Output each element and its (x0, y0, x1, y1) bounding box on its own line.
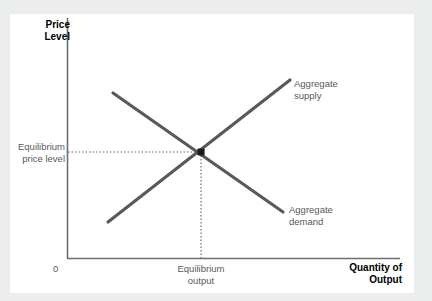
aggregate-supply-label-line-1: Aggregate (294, 78, 338, 90)
aggregate-demand-label-line-1: Aggregate (289, 204, 333, 216)
equilibrium-point-marker (197, 148, 204, 155)
equilibrium-price-level-label-line-1: Equilibrium (18, 141, 65, 153)
x-axis-title: Quantity of Output (349, 262, 402, 286)
equilibrium-price-level-label: Equilibrium price level (18, 141, 65, 164)
x-axis-title-line-1: Quantity of (349, 262, 402, 274)
aggregate-demand-label: Aggregate demand (289, 204, 333, 227)
origin-label: 0 (53, 263, 58, 275)
equilibrium-output-label: Equilibrium output (141, 263, 261, 286)
equilibrium-output-label-line-1: Equilibrium (141, 263, 261, 275)
y-axis-title-line-2: Level (44, 31, 70, 43)
equilibrium-output-label-line-2: output (141, 275, 261, 287)
aggregate-supply-label: Aggregate supply (294, 78, 338, 101)
y-axis-title-line-1: Price (44, 19, 70, 31)
aggregate-supply-label-line-2: supply (294, 90, 338, 102)
aggregate-demand-label-line-2: demand (289, 216, 333, 228)
equilibrium-price-level-label-line-2: price level (18, 153, 65, 165)
x-axis-title-line-2: Output (349, 274, 402, 286)
figure-root: Price Level Equilibrium price level 0 Eq… (0, 0, 432, 301)
y-axis-title: Price Level (44, 19, 70, 43)
